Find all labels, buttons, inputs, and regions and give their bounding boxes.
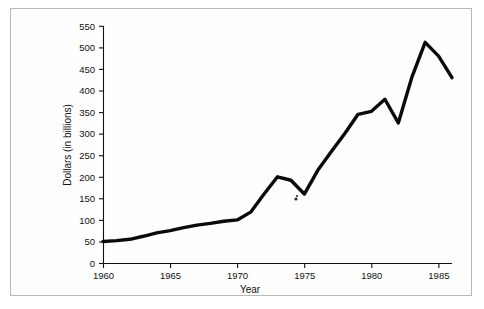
y-tick-label: 50 <box>84 236 95 247</box>
y-tick-label: 100 <box>79 215 95 226</box>
scan-speck <box>296 195 298 197</box>
y-tick-label: 300 <box>79 128 95 139</box>
x-tick-label: 1980 <box>361 270 382 281</box>
y-axis-title: Dollars (in billions) <box>62 104 73 186</box>
y-tick-label: 0 <box>90 258 95 269</box>
x-tick-label: 1985 <box>428 270 449 281</box>
y-tick-label: 200 <box>79 172 95 183</box>
y-tick-label: 450 <box>79 64 95 75</box>
data-series-line <box>103 42 452 241</box>
x-axis-title: Year <box>240 284 261 295</box>
y-tick-label: 250 <box>79 150 95 161</box>
x-tick-label: 1970 <box>227 270 248 281</box>
y-tick-labels: 0 50 100 150 200 250 300 350 400 450 500… <box>79 21 95 269</box>
x-tick-marks <box>104 264 439 269</box>
scan-speck <box>294 197 297 200</box>
x-tick-label: 1960 <box>93 270 114 281</box>
x-tick-labels: 1960 1965 1970 1975 1980 1985 <box>93 270 450 281</box>
y-tick-marks <box>99 26 104 263</box>
y-tick-label: 350 <box>79 107 95 118</box>
line-chart: 0 50 100 150 200 250 300 350 400 450 500… <box>0 0 484 309</box>
y-tick-label: 150 <box>79 193 95 204</box>
figure-page: 0 50 100 150 200 250 300 350 400 450 500… <box>0 0 484 309</box>
y-tick-label: 400 <box>79 85 95 96</box>
y-tick-label: 550 <box>79 21 95 32</box>
y-tick-label: 500 <box>79 42 95 53</box>
x-tick-label: 1965 <box>160 270 181 281</box>
x-tick-label: 1975 <box>294 270 315 281</box>
